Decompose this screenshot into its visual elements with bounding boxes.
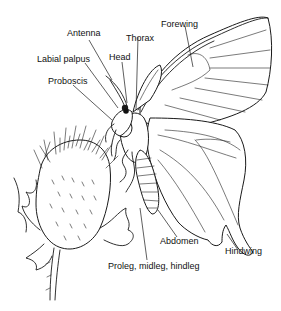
thistle-drawing xyxy=(14,126,133,300)
hindwing-drawing xyxy=(147,118,253,255)
label-abdomen: Abdomen xyxy=(160,236,199,246)
label-proboscis: Proboscis xyxy=(48,76,88,86)
label-thorax: Thorax xyxy=(126,33,154,43)
label-labial-palpus: Labial palpus xyxy=(37,54,90,64)
label-antenna: Antenna xyxy=(67,28,101,38)
label-legs: Proleg, midleg, hindleg xyxy=(108,261,200,271)
label-hindwing: Hindwing xyxy=(225,246,262,256)
label-forewing: Forewing xyxy=(161,19,198,29)
label-head: Head xyxy=(109,52,131,62)
